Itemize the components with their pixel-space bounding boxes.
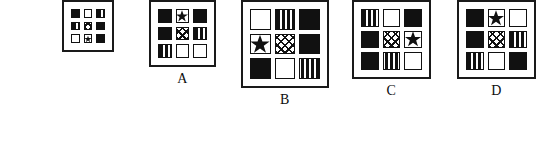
star-glyph-icon [176, 9, 189, 22]
grid-cell-star [176, 9, 190, 23]
option-panel-c-slot[interactable]: C [352, 0, 431, 98]
grid-cell-white [383, 9, 401, 27]
grid-cell-star [488, 9, 506, 27]
grid-cell-black [96, 34, 105, 43]
option-panel-c-grid [352, 0, 431, 79]
grid-cell-white [193, 44, 207, 58]
grid-cell-stripes [96, 9, 105, 18]
grid-cell-black [466, 31, 484, 49]
option-panel-d-grid [457, 0, 536, 79]
grid-cell-cross [84, 22, 93, 31]
star-glyph-icon [250, 34, 271, 55]
star-glyph-icon [488, 9, 506, 27]
grid-cell-white [250, 9, 271, 30]
option-panel-a-label: A [177, 72, 188, 86]
grid-cell-cross [275, 34, 296, 55]
grid-cell-black [361, 31, 379, 49]
grid-cell-cross [488, 31, 506, 49]
grid-cell-stripes [275, 9, 296, 30]
option-panel-b-grid [241, 0, 329, 88]
grid-cell-black [158, 9, 172, 23]
option-panel-b-label: B [280, 93, 290, 107]
grid-cell-stripes [383, 52, 401, 70]
option-panel-d-label: D [491, 84, 502, 98]
grid-cell-cross [383, 31, 401, 49]
grid-cell-stripes [361, 9, 379, 27]
grid-cell-white [275, 58, 296, 79]
grid-cell-black [361, 52, 379, 70]
grid-cell-star [84, 34, 93, 43]
grid-cell-black [299, 34, 320, 55]
matrix-reasoning-puzzle: ABCD [0, 0, 560, 142]
grid-cell-black [96, 22, 105, 31]
star-glyph-icon [84, 35, 91, 42]
grid-cell-black [299, 9, 320, 30]
grid-cell-black [250, 58, 271, 79]
grid-cell-white [84, 9, 93, 18]
option-panel-d-slot[interactable]: D [457, 0, 536, 98]
grid-cell-black [193, 9, 207, 23]
grid-cell-black [158, 27, 172, 41]
grid-cell-white [509, 9, 527, 27]
grid-cell-star [404, 31, 422, 49]
grid-cell-cross [176, 27, 190, 41]
option-panel-b-slot[interactable]: B [241, 0, 329, 107]
grid-cell-black [466, 9, 484, 27]
grid-cell-stripes [158, 44, 172, 58]
grid-cell-black [404, 9, 422, 27]
grid-cell-stripes [193, 27, 207, 41]
grid-cell-white [404, 52, 422, 70]
grid-cell-white [488, 52, 506, 70]
option-panel-a-grid [149, 0, 216, 67]
option-panel-c-label: C [387, 84, 397, 98]
stem-panel-grid [62, 0, 114, 52]
grid-cell-stripes [466, 52, 484, 70]
option-panel-a-slot[interactable]: A [149, 0, 216, 86]
grid-cell-black [509, 52, 527, 70]
star-glyph-icon [404, 31, 422, 49]
grid-cell-stripes [299, 58, 320, 79]
grid-cell-black [71, 9, 80, 18]
grid-cell-stripes [509, 31, 527, 49]
grid-cell-stripes [71, 22, 80, 31]
grid-cell-white [176, 44, 190, 58]
grid-cell-white [71, 34, 80, 43]
stem-panel-slot [62, 0, 114, 52]
grid-cell-star [250, 34, 271, 55]
